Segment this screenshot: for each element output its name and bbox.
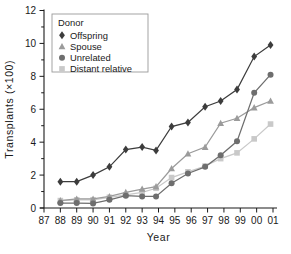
y-tick-label: 2 <box>30 170 36 181</box>
legend: DonorOffspringSpouseUnrelatedDistant rel… <box>52 14 148 74</box>
data-point <box>57 178 63 186</box>
x-tick-label: 89 <box>71 215 83 226</box>
data-point <box>268 121 274 127</box>
data-point <box>234 150 240 156</box>
x-tick-label: 98 <box>218 215 230 226</box>
x-tick-label: 96 <box>186 215 198 226</box>
x-tick-label: 01 <box>267 215 279 226</box>
data-point <box>90 200 96 206</box>
y-tick-label: 0 <box>30 203 36 214</box>
data-point <box>268 41 274 49</box>
x-tick-label: 99 <box>235 215 247 226</box>
y-tick-label: 10 <box>25 38 37 49</box>
data-point <box>202 103 208 111</box>
data-point <box>202 164 208 170</box>
chart-figure: 024681012878889909192939495969798990001Y… <box>0 0 291 254</box>
y-axis-title: Transplants (×100) <box>3 60 15 159</box>
data-point <box>106 197 112 203</box>
x-tick-label: 00 <box>251 215 263 226</box>
data-point <box>234 115 241 121</box>
line-chart: 024681012878889909192939495969798990001Y… <box>0 0 291 254</box>
legend-label: Unrelated <box>70 52 111 63</box>
series-unrelated <box>57 72 273 207</box>
data-point <box>185 118 191 126</box>
series-line <box>60 75 270 204</box>
data-point <box>251 90 257 96</box>
x-tick-label: 95 <box>169 215 181 226</box>
x-tick-label: 93 <box>137 215 149 226</box>
x-tick-label: 90 <box>88 215 100 226</box>
x-tick-label: 97 <box>202 215 214 226</box>
data-point <box>268 72 274 78</box>
data-point <box>90 171 96 179</box>
data-point <box>123 193 129 199</box>
data-point <box>74 178 80 186</box>
y-tick-label: 4 <box>30 137 36 148</box>
data-point <box>57 200 63 206</box>
data-point <box>218 97 224 105</box>
data-point <box>267 98 274 104</box>
y-tick-label: 6 <box>30 104 36 115</box>
x-tick-label: 94 <box>153 215 165 226</box>
y-tick-label: 12 <box>25 5 37 16</box>
data-point <box>185 170 191 176</box>
x-axis-title: Year <box>147 231 171 243</box>
series-spouse <box>57 98 274 204</box>
legend-marker-square <box>59 66 65 72</box>
data-point <box>139 193 145 199</box>
legend-label: Spouse <box>70 41 102 52</box>
x-tick-label: 91 <box>104 215 116 226</box>
data-point <box>218 152 224 158</box>
x-tick-label: 92 <box>120 215 132 226</box>
legend-label: Offspring <box>70 30 108 41</box>
legend-label: Distant relative <box>70 63 132 74</box>
data-point <box>234 138 240 144</box>
data-point <box>74 200 80 206</box>
x-tick-label: 87 <box>38 215 50 226</box>
series-distant-relative <box>58 121 274 203</box>
x-tick-label: 88 <box>55 215 67 226</box>
y-tick-label: 8 <box>30 71 36 82</box>
data-point <box>169 180 175 186</box>
data-point <box>169 175 175 181</box>
legend-title: Donor <box>58 17 84 28</box>
data-point <box>139 143 145 151</box>
data-point <box>251 136 257 142</box>
data-point <box>153 193 159 199</box>
legend-marker-circle <box>59 55 65 61</box>
